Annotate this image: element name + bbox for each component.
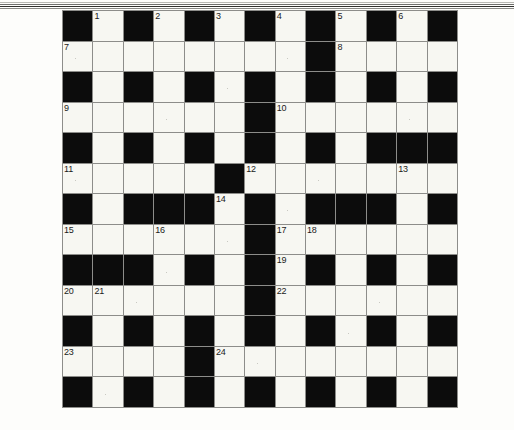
grid-cell[interactable] xyxy=(154,103,183,133)
grid-cell[interactable] xyxy=(124,164,153,194)
grid-cell[interactable]: 24 xyxy=(215,347,244,377)
grid-cell[interactable] xyxy=(306,347,335,377)
grid-cell[interactable]: 19 xyxy=(276,255,305,285)
grid-cell[interactable]: 5 xyxy=(336,11,365,41)
grid-cell[interactable] xyxy=(215,103,244,133)
grid-cell[interactable] xyxy=(276,377,305,407)
grid-cell[interactable] xyxy=(397,225,426,255)
grid-cell[interactable] xyxy=(185,225,214,255)
grid-cell[interactable] xyxy=(367,103,396,133)
grid-cell[interactable]: 8 xyxy=(336,42,365,72)
grid-cell[interactable] xyxy=(185,164,214,194)
grid-cell[interactable] xyxy=(276,347,305,377)
grid-cell[interactable] xyxy=(93,377,122,407)
grid-cell[interactable] xyxy=(154,286,183,316)
grid-cell[interactable] xyxy=(397,194,426,224)
grid-cell[interactable]: 7 xyxy=(63,42,92,72)
grid-cell[interactable] xyxy=(124,347,153,377)
grid-cell[interactable] xyxy=(276,164,305,194)
grid-cell[interactable] xyxy=(276,316,305,346)
grid-cell[interactable]: 17 xyxy=(276,225,305,255)
grid-cell[interactable]: 20 xyxy=(63,286,92,316)
grid-cell[interactable]: 10 xyxy=(276,103,305,133)
grid-cell[interactable] xyxy=(124,286,153,316)
grid-cell[interactable] xyxy=(276,72,305,102)
grid-cell[interactable] xyxy=(154,255,183,285)
grid-cell[interactable]: 16 xyxy=(154,225,183,255)
grid-cell[interactable]: 11 xyxy=(63,164,92,194)
grid-cell[interactable] xyxy=(93,42,122,72)
grid-cell[interactable] xyxy=(245,347,274,377)
grid-cell[interactable] xyxy=(397,72,426,102)
grid-cell[interactable] xyxy=(93,72,122,102)
grid-cell[interactable] xyxy=(215,255,244,285)
grid-cell[interactable] xyxy=(215,286,244,316)
crossword-grid[interactable]: 123456789101112131415161718192021222324 xyxy=(62,10,458,408)
grid-cell[interactable]: 23 xyxy=(63,347,92,377)
grid-cell[interactable] xyxy=(367,164,396,194)
grid-cell[interactable] xyxy=(306,103,335,133)
grid-cell[interactable] xyxy=(154,72,183,102)
grid-cell[interactable] xyxy=(306,286,335,316)
grid-cell[interactable] xyxy=(428,286,457,316)
grid-cell[interactable] xyxy=(397,286,426,316)
grid-cell[interactable] xyxy=(215,316,244,346)
grid-cell[interactable] xyxy=(367,347,396,377)
grid-cell[interactable] xyxy=(93,164,122,194)
grid-cell[interactable] xyxy=(428,164,457,194)
grid-cell[interactable] xyxy=(154,164,183,194)
grid-cell[interactable]: 22 xyxy=(276,286,305,316)
grid-cell[interactable]: 2 xyxy=(154,11,183,41)
grid-cell[interactable] xyxy=(215,72,244,102)
grid-cell[interactable] xyxy=(124,103,153,133)
grid-cell[interactable] xyxy=(367,225,396,255)
grid-cell[interactable] xyxy=(93,103,122,133)
grid-cell[interactable] xyxy=(397,255,426,285)
grid-cell[interactable] xyxy=(124,42,153,72)
grid-cell[interactable] xyxy=(93,316,122,346)
grid-cell[interactable] xyxy=(215,42,244,72)
grid-cell[interactable] xyxy=(397,347,426,377)
grid-cell[interactable] xyxy=(185,103,214,133)
grid-cell[interactable] xyxy=(93,225,122,255)
grid-cell[interactable]: 12 xyxy=(245,164,274,194)
grid-cell[interactable] xyxy=(336,255,365,285)
grid-cell[interactable] xyxy=(336,286,365,316)
grid-cell[interactable]: 9 xyxy=(63,103,92,133)
grid-cell[interactable]: 6 xyxy=(397,11,426,41)
grid-cell[interactable] xyxy=(185,286,214,316)
grid-cell[interactable] xyxy=(428,42,457,72)
grid-cell[interactable] xyxy=(154,347,183,377)
grid-cell[interactable] xyxy=(397,377,426,407)
grid-cell[interactable] xyxy=(93,347,122,377)
grid-cell[interactable] xyxy=(367,286,396,316)
grid-cell[interactable] xyxy=(336,347,365,377)
grid-cell[interactable] xyxy=(397,42,426,72)
grid-cell[interactable] xyxy=(428,103,457,133)
grid-cell[interactable]: 18 xyxy=(306,225,335,255)
grid-cell[interactable]: 14 xyxy=(215,194,244,224)
grid-cell[interactable] xyxy=(336,133,365,163)
grid-cell[interactable] xyxy=(336,377,365,407)
grid-cell[interactable] xyxy=(154,316,183,346)
grid-cell[interactable]: 4 xyxy=(276,11,305,41)
grid-cell[interactable] xyxy=(93,133,122,163)
grid-cell[interactable] xyxy=(397,103,426,133)
grid-cell[interactable] xyxy=(215,225,244,255)
grid-cell[interactable] xyxy=(124,225,153,255)
grid-cell[interactable] xyxy=(276,133,305,163)
grid-cell[interactable] xyxy=(154,42,183,72)
grid-cell[interactable] xyxy=(276,42,305,72)
grid-cell[interactable] xyxy=(306,164,335,194)
grid-cell[interactable]: 1 xyxy=(93,11,122,41)
grid-cell[interactable] xyxy=(336,316,365,346)
grid-cell[interactable]: 3 xyxy=(215,11,244,41)
grid-cell[interactable] xyxy=(185,42,214,72)
grid-cell[interactable] xyxy=(367,42,396,72)
grid-cell[interactable] xyxy=(215,133,244,163)
grid-cell[interactable] xyxy=(336,103,365,133)
grid-cell[interactable]: 13 xyxy=(397,164,426,194)
grid-cell[interactable] xyxy=(154,377,183,407)
grid-cell[interactable] xyxy=(428,347,457,377)
grid-cell[interactable] xyxy=(336,225,365,255)
